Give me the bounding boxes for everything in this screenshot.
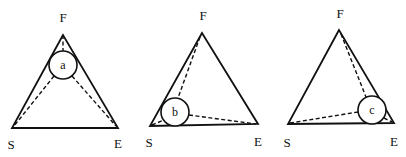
circle-label: c xyxy=(369,103,374,117)
triangle-diagrams: a F S E b F S E c F S E xyxy=(0,0,406,157)
triangle-diagram-a: a F S E xyxy=(7,10,122,152)
circle-label: a xyxy=(60,58,66,72)
dashed-line-to-E xyxy=(189,115,256,124)
vertex-label-E: E xyxy=(254,134,262,149)
vertex-label-E: E xyxy=(114,136,122,151)
vertex-label-E: E xyxy=(390,134,398,149)
dashed-line-to-F xyxy=(178,37,200,98)
dashed-line-to-S xyxy=(290,112,358,123)
vertex-label-S: S xyxy=(283,135,290,150)
triangle-diagram-b: b F S E xyxy=(145,8,262,150)
triangle-diagram-c: c F S E xyxy=(283,6,398,150)
dashed-line-to-E xyxy=(72,76,116,126)
vertex-label-F: F xyxy=(59,10,66,25)
vertex-label-S: S xyxy=(145,135,152,150)
triangle-outline xyxy=(12,35,118,128)
vertex-label-S: S xyxy=(7,137,14,152)
circle-label: b xyxy=(172,105,178,119)
vertex-label-F: F xyxy=(199,8,206,23)
dashed-line-to-S xyxy=(14,76,54,126)
vertex-label-F: F xyxy=(336,6,343,21)
dashed-line-to-F xyxy=(341,34,366,97)
